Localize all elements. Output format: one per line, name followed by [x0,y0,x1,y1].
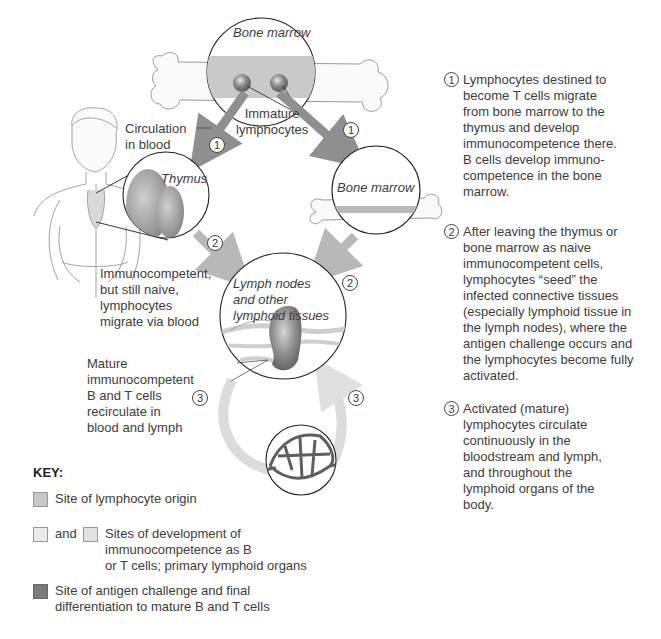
step-number: 2 [444,224,459,239]
step-badge-3-left: 3 [192,390,208,406]
step-badge-1-left: 1 [209,137,225,153]
label-mature-cells: Mature immunocompetent B and T cells rec… [87,356,194,436]
step-badge-2-right: 2 [342,275,358,291]
step-badge-3-right: 3 [348,390,364,406]
label-immature-lymphocytes: Immature lymphocytes [236,106,308,138]
key-item-origin: Site of lymphocyte origin [55,491,197,507]
label-bone-marrow-top: Bone marrow [233,25,310,41]
swatch-bone-marrow-primary [33,527,48,542]
step-number: 1 [444,72,459,87]
key-item-antigen-challenge: Site of antigen challenge and final diff… [55,583,270,615]
key-item-primary-organs: Sites of development of immunocompetence… [105,526,307,574]
step-number: 3 [444,401,459,416]
swatch-origin [33,492,48,507]
step-badge-1-right: 1 [343,122,359,138]
swatch-thymus-primary [83,527,98,542]
step-badge-2-left: 2 [207,235,223,251]
step-text: Activated (mature) lymphocytes circulate… [463,401,661,513]
thymus-inset [123,152,209,241]
label-immunocompetent-naive: Immunocompetent, but still naive, lympho… [100,266,211,330]
label-lymph-nodes: Lymph nodes and other lymphoid tissues [233,276,329,324]
label-circulation-in-blood: Circulation in blood [125,121,186,153]
step-text: After leaving the thymus or bone marrow … [463,224,661,384]
key-and-label: and [55,526,77,542]
key-title: KEY: [33,465,63,480]
capillary-network-inset [262,425,340,495]
swatch-antigen-challenge [33,584,48,599]
step-text: Lymphocytes destined to become T cells m… [463,72,661,200]
label-thymus: Thymus [161,171,207,187]
label-bone-marrow-right: Bone marrow [337,180,414,196]
